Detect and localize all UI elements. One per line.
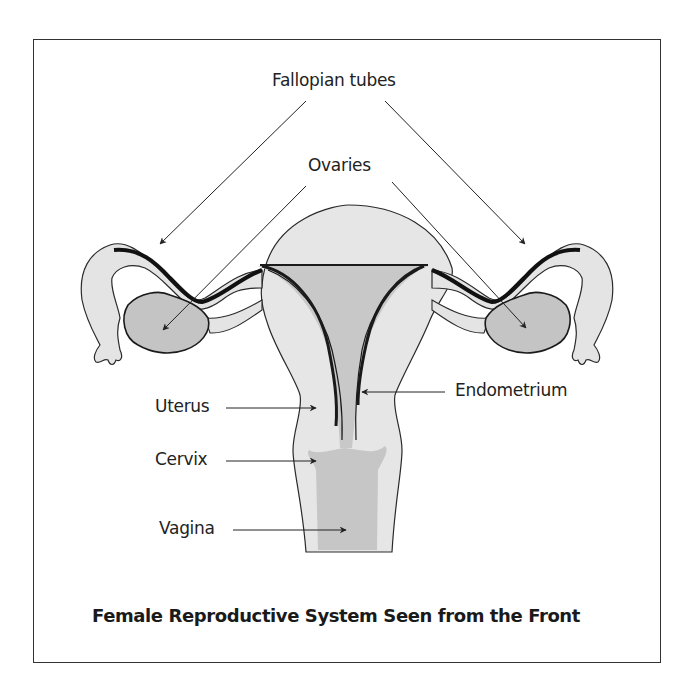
label-vagina: Vagina <box>159 518 215 538</box>
label-endometrium: Endometrium <box>455 380 567 400</box>
label-ovaries: Ovaries <box>308 155 371 175</box>
label-uterus: Uterus <box>155 396 209 416</box>
label-cervix: Cervix <box>155 449 207 469</box>
figure-title: Female Reproductive System Seen from the… <box>92 605 580 626</box>
fallopian-left-leader <box>160 101 306 244</box>
vaginal-canal <box>308 446 387 550</box>
anatomy-diagram <box>0 0 694 682</box>
label-fallopian-tubes: Fallopian tubes <box>272 70 396 90</box>
